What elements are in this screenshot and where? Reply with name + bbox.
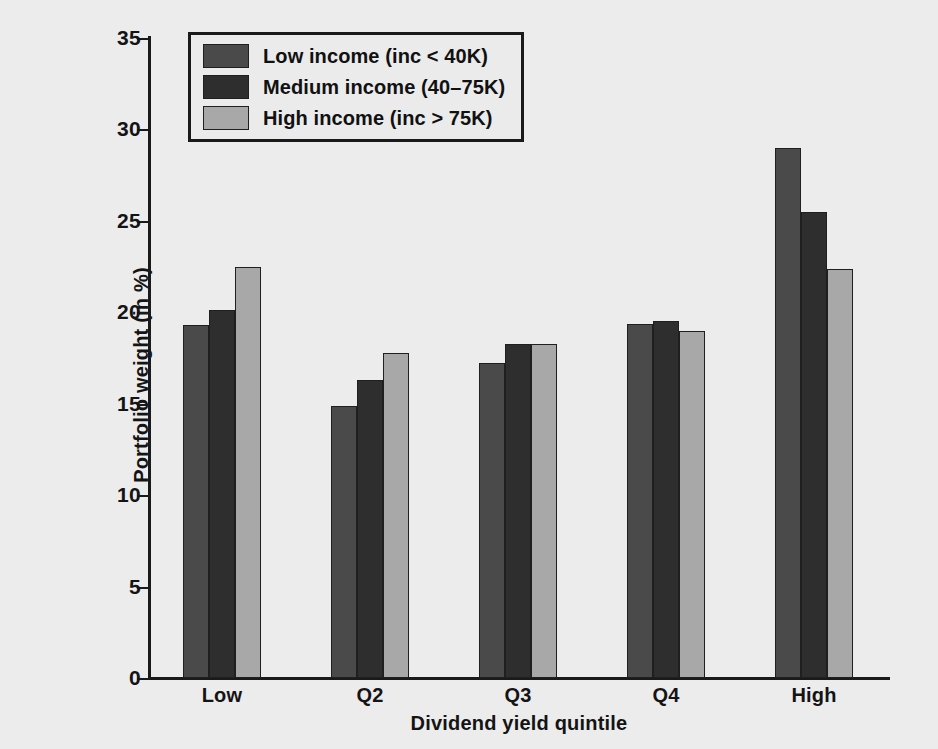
legend-swatch <box>203 106 249 130</box>
bar <box>679 331 705 678</box>
bar <box>479 363 505 678</box>
bar <box>235 267 261 678</box>
y-tick-label: 20 <box>117 300 141 324</box>
legend-item: High income (inc > 75K) <box>203 106 505 130</box>
y-tick-label: 5 <box>129 575 141 599</box>
bar <box>331 406 357 678</box>
y-tick-label: 15 <box>117 392 141 416</box>
legend-swatch <box>203 44 249 68</box>
x-tick-label: Q3 <box>444 684 592 707</box>
y-tick-label: 0 <box>129 666 141 690</box>
bar <box>627 324 653 678</box>
y-tick-label: 30 <box>117 117 141 141</box>
y-tick-label: 10 <box>117 483 141 507</box>
y-tick-label: 35 <box>117 26 141 50</box>
bar <box>383 353 409 678</box>
bar-group <box>775 38 853 678</box>
bar <box>183 325 209 678</box>
bar <box>209 310 235 678</box>
bar <box>531 344 557 678</box>
bar <box>653 321 679 678</box>
legend-label: Medium income (40–75K) <box>263 76 505 99</box>
x-tick-label: Q2 <box>296 684 444 707</box>
legend-item: Medium income (40–75K) <box>203 75 505 99</box>
bar-chart-figure: Portfolio weight (in %) 05101520253035 L… <box>0 0 938 749</box>
y-tick-label: 25 <box>117 209 141 233</box>
legend-label: Low income (inc < 40K) <box>263 45 488 68</box>
bar <box>827 269 853 678</box>
bar <box>801 212 827 678</box>
bar <box>505 344 531 678</box>
bar <box>775 148 801 678</box>
x-tick-label: High <box>740 684 888 707</box>
legend-label: High income (inc > 75K) <box>263 107 493 130</box>
chart-legend: Low income (inc < 40K)Medium income (40–… <box>188 32 524 142</box>
legend-swatch <box>203 75 249 99</box>
x-tick-label: Low <box>148 684 296 707</box>
bar-group <box>627 38 705 678</box>
bar <box>357 380 383 678</box>
legend-item: Low income (inc < 40K) <box>203 44 505 68</box>
x-axis-title: Dividend yield quintile <box>148 712 890 735</box>
x-tick-label: Q4 <box>592 684 740 707</box>
